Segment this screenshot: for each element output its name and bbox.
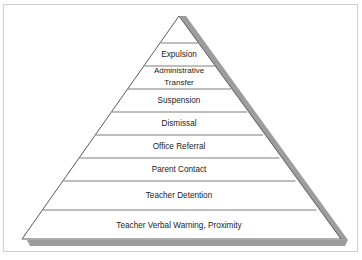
pyramid-base-shadow — [27, 240, 348, 246]
pyramid-diagram: Expulsion Administrative Transfer Suspen… — [0, 0, 362, 260]
tier-label-dismissal: Dismissal — [161, 119, 196, 128]
tier-label-expulsion: Expulsion — [161, 50, 197, 59]
tier-label-suspension: Suspension — [158, 96, 201, 105]
tier-label-teacher-verbal-warning-proximity: Teacher Verbal Warning, Proximity — [116, 221, 242, 230]
tier-label-teacher-detention: Teacher Detention — [146, 191, 213, 200]
tier-label-office-referral: Office Referral — [153, 142, 206, 151]
tier-label-administrative-transfer-line2: Transfer — [164, 78, 194, 87]
tier-label-parent-contact: Parent Contact — [152, 165, 207, 174]
tier-label-administrative-transfer-line1: Administrative — [154, 66, 205, 75]
